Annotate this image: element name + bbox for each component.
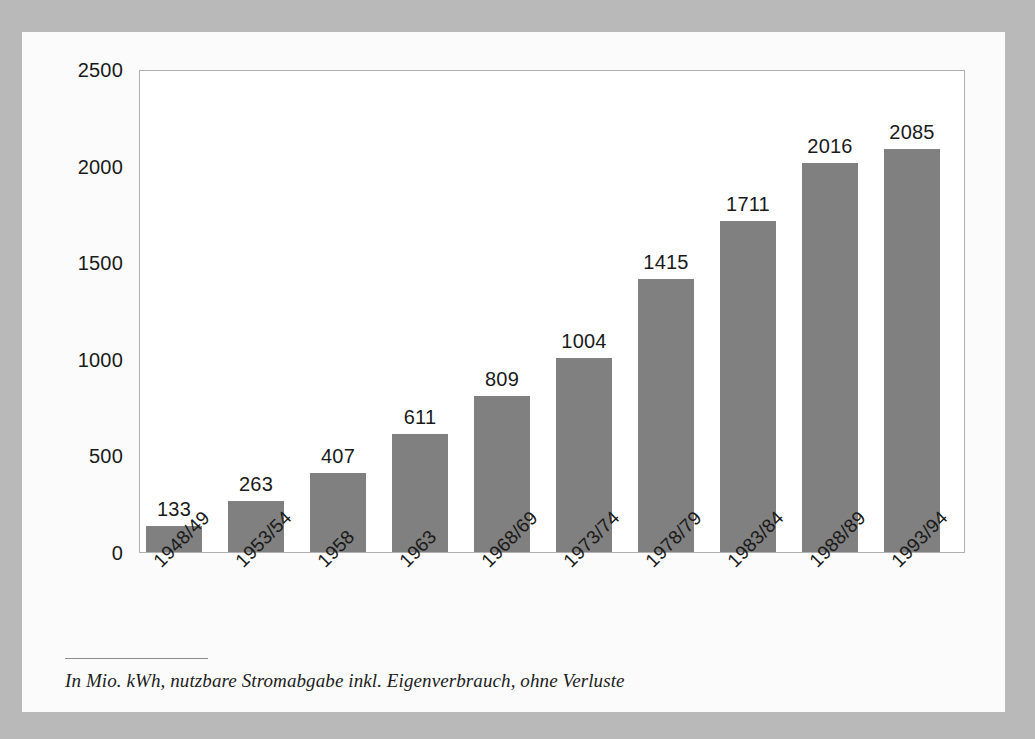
- bar-value-label: 809: [460, 368, 544, 391]
- bar-value-label: 2085: [870, 121, 954, 144]
- x-axis-tick-label: 1963: [391, 555, 447, 581]
- x-axis-tick-label: 1973/74: [555, 555, 611, 581]
- bar-value-label: 263: [214, 473, 298, 496]
- bar-value-label: 1711: [706, 193, 790, 216]
- bar-value-label: 2016: [788, 135, 872, 158]
- bar-chart-figure: 05001000150020002500 1332634076118091004…: [22, 32, 1005, 712]
- bar-value-label: 1004: [542, 330, 626, 353]
- x-axis-tick-label: 1988/89: [801, 555, 857, 581]
- bar-group[interactable]: 2085: [884, 69, 940, 552]
- y-axis-tick-label: 2000: [37, 155, 123, 178]
- y-axis-tick-label: 0: [37, 542, 123, 565]
- y-axis-tick-label: 1500: [37, 252, 123, 275]
- bar-group[interactable]: 263: [228, 69, 284, 552]
- x-axis: 1948/491953/54195819631968/691973/741978…: [139, 555, 965, 665]
- y-axis-tick-label: 500: [37, 445, 123, 468]
- x-axis-tick-label: 1968/69: [473, 555, 529, 581]
- bar-group[interactable]: 1415: [638, 69, 694, 552]
- bar[interactable]: [720, 221, 776, 552]
- x-axis-tick-label: 1958: [309, 555, 365, 581]
- x-axis-tick-label: 1978/79: [637, 555, 693, 581]
- bars-layer: 13326340761180910041415171120162085: [140, 71, 964, 552]
- bar-group[interactable]: 407: [310, 69, 366, 552]
- bar-group[interactable]: 133: [146, 69, 202, 552]
- x-axis-tick-label: 1983/84: [719, 555, 775, 581]
- x-axis-tick-label: 1948/49: [145, 555, 201, 581]
- y-axis: 05001000150020002500: [37, 70, 123, 553]
- bar-group[interactable]: 2016: [802, 69, 858, 552]
- footnote: In Mio. kWh, nutzbare Stromabgabe inkl. …: [65, 658, 945, 692]
- bar[interactable]: [802, 163, 858, 552]
- bar[interactable]: [884, 149, 940, 552]
- footnote-text: In Mio. kWh, nutzbare Stromabgabe inkl. …: [65, 670, 945, 692]
- x-axis-tick-label: 1993/94: [883, 555, 939, 581]
- bar-value-label: 1415: [624, 251, 708, 274]
- bar-value-label: 611: [378, 406, 462, 429]
- plot-area: 13326340761180910041415171120162085: [139, 70, 965, 553]
- footnote-rule: [65, 658, 208, 659]
- y-axis-tick-label: 1000: [37, 348, 123, 371]
- bar-group[interactable]: 809: [474, 69, 530, 552]
- y-axis-tick-label: 2500: [37, 59, 123, 82]
- bar-group[interactable]: 611: [392, 69, 448, 552]
- x-axis-tick-label: 1953/54: [227, 555, 283, 581]
- bar-value-label: 407: [296, 445, 380, 468]
- page-panel: 05001000150020002500 1332634076118091004…: [22, 32, 1005, 712]
- bar-group[interactable]: 1004: [556, 69, 612, 552]
- bar-group[interactable]: 1711: [720, 69, 776, 552]
